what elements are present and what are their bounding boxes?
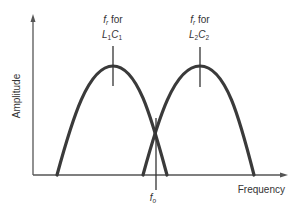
x-axis-label: Frequency	[238, 184, 285, 195]
x-axis-arrow-icon	[280, 173, 288, 178]
curve-l2c2	[143, 66, 254, 175]
c2-subscript: 2	[205, 34, 209, 41]
resonance-diagram: Amplitude Frequency fr for L1C1 fr for L…	[0, 0, 303, 211]
crossover-sub: o	[153, 197, 157, 204]
y-axis-arrow-icon	[31, 14, 36, 22]
peak-label-l2c2-line1: fr for	[190, 14, 210, 26]
peak-label-l1c1-line2: L1C1	[102, 29, 122, 41]
peak-label-l1c1-for: for	[108, 14, 123, 25]
peak-label-l1c1-line1: fr for	[103, 14, 123, 26]
peak-label-l2c2-for: for	[195, 14, 210, 25]
y-axis-label: Amplitude	[11, 73, 22, 118]
curve-l1c1	[57, 66, 167, 175]
c1-subscript: 1	[118, 34, 122, 41]
crossover-label: fo	[150, 192, 157, 204]
peak-label-l2c2-line2: L2C2	[189, 29, 209, 41]
